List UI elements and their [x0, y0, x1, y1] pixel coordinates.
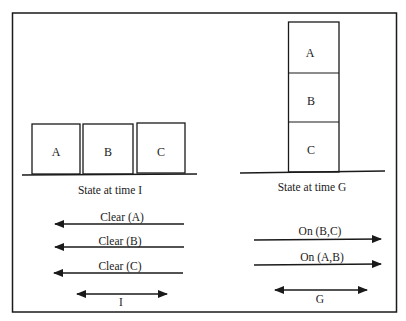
time-markers: I G [77, 290, 367, 308]
block-c-goal-label: C [307, 143, 315, 157]
condition-on-a-b-label: On (A,B) [300, 251, 344, 264]
goal-state: A B C State at time G [240, 22, 385, 193]
block-b-initial-label: B [104, 145, 112, 159]
condition-clear-c-label: Clear (C) [98, 260, 141, 273]
caption-initial: State at time I [78, 184, 142, 196]
block-a-initial-label: A [52, 145, 61, 159]
caption-goal: State at time G [278, 181, 347, 193]
blocks-world-diagram: A B C State at time I A B C State at tim… [0, 0, 406, 321]
block-a-goal-label: A [306, 46, 315, 60]
condition-clear-b-label: Clear (B) [98, 235, 141, 248]
block-c-initial-label: C [157, 145, 165, 159]
ground-line-initial [22, 174, 197, 175]
initial-conditions: Clear (A) Clear (B) Clear (C) [54, 211, 184, 273]
initial-state: A B C State at time I [22, 123, 197, 196]
ground-line-goal [240, 171, 385, 173]
time-marker-goal-label: G [316, 293, 324, 305]
arrow-on-b-c [254, 239, 381, 240]
arrow-on-a-b [254, 264, 381, 265]
goal-conditions: On (B,C) On (A,B) [254, 225, 381, 265]
condition-clear-a-label: Clear (A) [100, 211, 144, 224]
block-b-goal-label: B [307, 94, 315, 108]
condition-on-b-c-label: On (B,C) [299, 225, 342, 238]
time-marker-initial-label: I [119, 296, 123, 308]
